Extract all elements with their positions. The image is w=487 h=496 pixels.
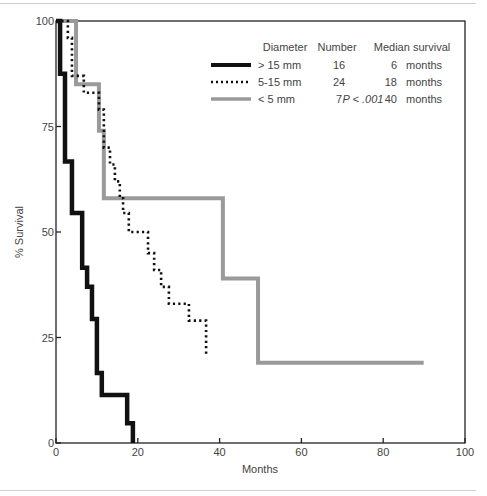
- legend-median-unit: months: [406, 59, 443, 71]
- y-tick-label: 25: [42, 332, 54, 344]
- y-tick-label: 50: [42, 226, 54, 238]
- legend-median-unit: months: [406, 76, 443, 88]
- survival-chart: 0204060801000255075100 Months % Survival…: [0, 0, 487, 496]
- legend-number: 7: [336, 93, 342, 105]
- x-axis-title: Months: [242, 463, 279, 475]
- x-tick-label: 20: [132, 446, 144, 458]
- series-line-2: [56, 21, 206, 354]
- legend-number: 16: [333, 59, 345, 71]
- legend-label: < 5 mm: [258, 93, 295, 105]
- x-tick-label: 60: [295, 446, 307, 458]
- legend-header-diameter: Diameter: [263, 41, 308, 53]
- legend-label: > 15 mm: [258, 59, 301, 71]
- legend-median-unit: months: [406, 93, 443, 105]
- legend-median: 40: [385, 93, 397, 105]
- p-value-annotation: P < .001: [343, 93, 384, 105]
- legend-median: 18: [385, 76, 397, 88]
- y-tick-label: 100: [36, 15, 54, 27]
- legend-label: 5-15 mm: [258, 76, 301, 88]
- x-tick-label: 100: [456, 446, 474, 458]
- series-line-3: [56, 21, 424, 363]
- x-tick-label: 40: [213, 446, 225, 458]
- legend-number: 24: [333, 76, 345, 88]
- legend-median: 6: [391, 59, 397, 71]
- x-tick-label: 80: [377, 446, 389, 458]
- y-tick-label: 75: [42, 121, 54, 133]
- legend-header-median: Median survival: [374, 41, 450, 53]
- series-lines: [56, 21, 424, 443]
- y-tick-label: 0: [48, 437, 54, 449]
- legend-header-number: Number: [317, 41, 356, 53]
- y-axis-title: % Survival: [13, 206, 25, 258]
- legend: Diameter Number Median survival > 15 mm1…: [211, 41, 450, 105]
